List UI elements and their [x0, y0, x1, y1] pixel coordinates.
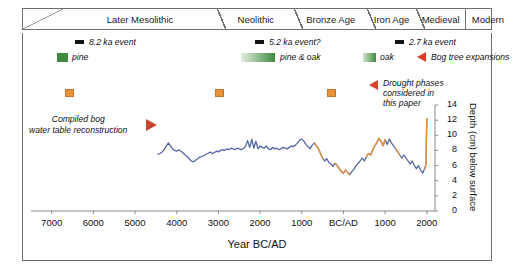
y-axis-title: Depth (cm) below surface [468, 103, 479, 211]
x-tick-label: 2000 [250, 217, 271, 228]
period-cell-neolithic: Neolithic [217, 9, 294, 29]
x-tick-label: 3000 [208, 217, 229, 228]
plot-area: 024681012147000600050004000300020001000B… [23, 33, 493, 261]
y-tick-label: 12 [441, 114, 457, 124]
chart-frame: 8.2 ka event 5.2 ka event? 2.7 ka event … [22, 33, 492, 261]
period-label: Iron Age [374, 14, 409, 25]
period-separator-diagonal [294, 9, 304, 29]
y-tick-label: 0 [441, 205, 457, 215]
period-cell-bronze-age: Bronze Age [294, 9, 367, 29]
period-separator-diagonal [416, 9, 426, 29]
y-tick-label: 10 [441, 129, 457, 139]
y-tick-label: 14 [441, 99, 457, 109]
period-cell-iron-age: Iron Age [367, 9, 416, 29]
period-cell-medieval: Medieval [416, 9, 465, 29]
period-cell-modern: Modern [465, 9, 509, 29]
period-label: Modern [472, 14, 504, 25]
x-tick-label: 7000 [41, 217, 62, 228]
y-tick-label: 2 [441, 190, 457, 200]
x-tick-label: 4000 [166, 217, 187, 228]
x-tick-label: 1000 [375, 217, 396, 228]
period-label: Bronze Age [306, 14, 355, 25]
period-separator-diagonal [367, 9, 377, 29]
y-tick-label: 4 [441, 175, 457, 185]
period-label: Neolithic [238, 14, 274, 25]
archaeological-period-bar: Later MesolithicNeolithicBronze AgeIron … [22, 8, 492, 30]
y-tick-label: 8 [441, 144, 457, 154]
x-tick-label: 6000 [83, 217, 104, 228]
x-axis-title: Year BC/AD [23, 238, 491, 250]
x-tick-label: 1000 [291, 217, 312, 228]
period-separator-diagonal [217, 9, 227, 29]
y-tick-label: 6 [441, 160, 457, 170]
period-cell-later-mesolithic: Later Mesolithic [63, 9, 217, 29]
x-tick-label: 2000 [416, 217, 437, 228]
figure-panel: Later MesolithicNeolithicBronze AgeIron … [0, 0, 515, 271]
period-cell-blank [23, 9, 63, 29]
x-tick-label: BC/AD [329, 217, 358, 228]
x-tick-label: 5000 [124, 217, 145, 228]
period-label: Later Mesolithic [107, 14, 174, 25]
period-label: Medieval [422, 14, 460, 25]
